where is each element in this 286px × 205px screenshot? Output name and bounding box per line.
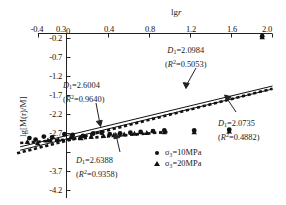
chart-figure: lgr lg[M(r)/M] -0.4 0.3 0 0.4 0.8 1.2 1.… bbox=[0, 0, 286, 205]
y-tick-marks bbox=[67, 39, 71, 191]
plot-area bbox=[0, 0, 286, 205]
annotation-arrows bbox=[96, 68, 236, 152]
annotation-d1-2.0735-line2: (R2=0.4882) bbox=[218, 131, 259, 143]
legend-item-10mpa: σ₃=10MPa bbox=[152, 147, 201, 158]
legend-label-10mpa: σ₃=10MPa bbox=[165, 147, 201, 158]
annotation-d-2.6004: D1=2.6004 (R2=0.9640) bbox=[63, 81, 104, 104]
legend: σ₃=10MPa σ₃=20MPa bbox=[152, 147, 201, 169]
annotation-d1-2.0984-line2: (R2=0.5053) bbox=[165, 58, 206, 70]
circle-marker-icon bbox=[152, 151, 161, 155]
annotation-d1-2.0984-line1: D1=2.0984 bbox=[165, 46, 206, 58]
annotation-d1-2.0735-line1: D1=2.0735 bbox=[218, 119, 259, 131]
x-tick-marks bbox=[39, 34, 273, 38]
annotation-d1-2.6388-line2: (R2=0.9358) bbox=[76, 168, 117, 180]
data-point bbox=[41, 134, 46, 139]
data-point bbox=[151, 129, 156, 134]
data-point bbox=[27, 136, 32, 141]
annotation-d1-2.6388: D1=2.6388 (R2=0.9358) bbox=[76, 156, 117, 179]
legend-label-20mpa: σ₃=20MPa bbox=[165, 158, 201, 169]
data-point bbox=[50, 135, 55, 140]
data-point bbox=[128, 130, 133, 135]
triangle-marker-icon bbox=[152, 161, 161, 166]
annotation-d-2.6004-line1: D1=2.6004 bbox=[63, 81, 104, 93]
legend-item-20mpa: σ₃=20MPa bbox=[152, 158, 201, 169]
annotation-d1-2.6388-line1: D1=2.6388 bbox=[76, 156, 117, 168]
data-point bbox=[118, 131, 123, 136]
annotation-d-2.6004-line2: (R2=0.9640) bbox=[63, 93, 104, 105]
annotation-d1-2.0735: D1=2.0735 (R2=0.4882) bbox=[218, 119, 259, 142]
data-point bbox=[107, 132, 112, 137]
annotation-d1-2.0984: D1=2.0984 (R2=0.5053) bbox=[165, 46, 206, 69]
data-point bbox=[62, 132, 67, 137]
data-point bbox=[138, 130, 143, 135]
